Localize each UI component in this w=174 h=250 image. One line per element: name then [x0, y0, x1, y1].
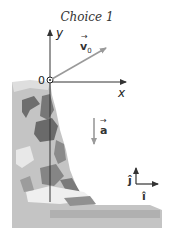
acceleration-symbol: a — [100, 124, 107, 137]
velocity-label: → v0 — [80, 40, 92, 55]
y-axis-label: y — [56, 26, 63, 40]
i-label: î — [142, 190, 146, 203]
origin-label: 0 — [38, 74, 45, 87]
j-label: ĵ — [128, 174, 132, 187]
cliff-illustration — [12, 80, 162, 228]
x-axis-label: x — [118, 86, 125, 100]
acceleration-label: → a — [100, 124, 107, 137]
velocity-symbol: v — [80, 40, 87, 53]
velocity-subscript: 0 — [87, 47, 91, 55]
velocity-vector — [52, 48, 106, 79]
